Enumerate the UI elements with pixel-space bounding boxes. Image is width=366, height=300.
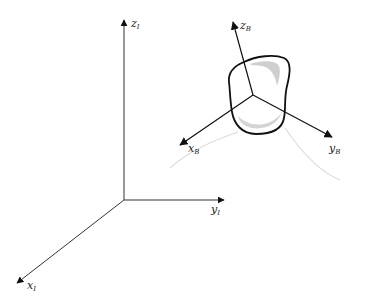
body-shading-top [250, 61, 280, 86]
body-frame: xB yB zB [180, 19, 340, 156]
body-outline [229, 56, 290, 134]
x-b-label: xB [188, 142, 199, 156]
z-b-label: zB [239, 19, 251, 33]
x-i-label: xI [27, 279, 36, 293]
trajectory-left [170, 132, 238, 168]
y-b-axis [253, 95, 332, 137]
z-i-label: zI [130, 17, 140, 31]
body-shading-bottom [238, 112, 282, 128]
reference-frames-diagram: xI yI zI xB yB zB [0, 0, 366, 300]
inertial-frame: xI yI zI [17, 17, 224, 293]
rigid-body [229, 56, 290, 134]
y-b-label: yB [328, 142, 340, 156]
x-i-axis [17, 200, 124, 283]
y-i-label: yI [210, 203, 220, 217]
